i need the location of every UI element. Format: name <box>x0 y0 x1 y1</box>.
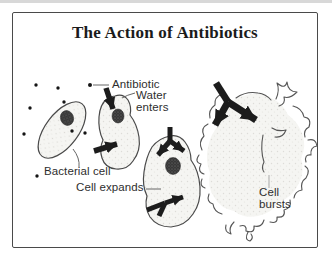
cell-body <box>29 94 95 167</box>
antibiotic-dot <box>28 106 31 109</box>
cell-stage2-water-enters <box>94 88 139 169</box>
burst-membrane-fragment <box>276 82 297 106</box>
burst-membrane-fragment <box>200 124 208 150</box>
water-enters-label: Water enters <box>136 90 169 113</box>
burst-membrane-fragment <box>197 155 204 174</box>
antibiotic-dot <box>34 83 37 86</box>
cell-bursts-label: Cell bursts <box>259 187 291 210</box>
cell-expands-label: Cell expands <box>76 182 144 194</box>
membrane-dot <box>62 100 65 103</box>
cell-stage3-expands <box>143 127 200 227</box>
burst-membrane-fragment <box>226 222 234 234</box>
antibiotic-dot <box>22 132 25 135</box>
burst-membrane-fragment <box>306 140 317 162</box>
cell-body <box>143 136 200 227</box>
bacterial-cell-label: Bacterial cell <box>44 166 111 178</box>
diagram-canvas <box>0 0 332 257</box>
nucleoid <box>112 109 124 123</box>
antibiotic-dot <box>83 131 86 134</box>
antibiotic-dot <box>56 86 59 89</box>
bacterial-cell-stage1 <box>29 94 95 167</box>
antibiotic-legend-dot <box>88 83 92 87</box>
antibiotic-dot <box>35 174 38 177</box>
nucleoid <box>166 158 181 175</box>
burst-membrane-fragment <box>240 220 264 232</box>
cell-body <box>99 95 140 169</box>
burst-membrane-fragment <box>246 232 252 241</box>
cell-stage4-bursts <box>197 82 317 241</box>
burst-membrane-fragment <box>201 179 205 188</box>
membrane-dot <box>70 129 73 132</box>
water-enters-leader-line <box>122 93 135 98</box>
antibiotics-diagram-panel: The Action of Antibiotics <box>0 0 332 257</box>
